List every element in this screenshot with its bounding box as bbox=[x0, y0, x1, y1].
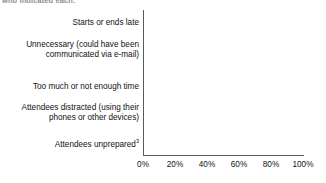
category-label-line: Too much or not enough time bbox=[33, 82, 139, 91]
category-footnote-marker: 3 bbox=[136, 138, 139, 144]
category-label-line: phones or other devices) bbox=[3, 113, 139, 123]
category-label-unnecessary: Unnecessary (could have been communicate… bbox=[3, 40, 139, 59]
category-label-starts-or-ends-late: Starts or ends late bbox=[3, 18, 139, 28]
category-label-attendees-unprepared: Attendees unprepared3 bbox=[3, 140, 139, 150]
category-label-line: Attendees distracted (using their bbox=[3, 103, 139, 113]
category-label-attendees-distracted: Attendees distracted (using their phones… bbox=[3, 103, 139, 122]
plot-area bbox=[143, 10, 303, 156]
category-label-line: Unnecessary (could have been bbox=[3, 40, 139, 50]
category-label-too-much-or-not-enough-time: Too much or not enough time bbox=[3, 82, 139, 92]
category-label-line: Starts or ends late bbox=[73, 18, 139, 27]
horizontal-bar-chart: Starts or ends late Unnecessary (could h… bbox=[0, 0, 326, 183]
category-label-line: Attendees unprepared bbox=[55, 140, 136, 149]
xtick-label-5: 100% bbox=[283, 160, 323, 169]
category-label-line: communicated via e-mail) bbox=[3, 50, 139, 60]
